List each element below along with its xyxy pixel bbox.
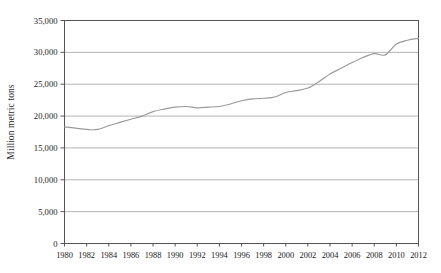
y-axis-tick-label: 25,000 xyxy=(34,79,58,89)
x-axis-tick-label: 2004 xyxy=(322,251,340,260)
x-axis-tick-label: 1992 xyxy=(189,251,206,260)
plot-border xyxy=(65,21,419,244)
x-axis-tick-label: 1982 xyxy=(78,251,95,260)
y-axis-tick-label: 30,000 xyxy=(34,47,58,57)
y-axis-tick-label: 35,000 xyxy=(34,16,58,26)
gridlines-group xyxy=(65,52,419,211)
x-axis-tick-label: 1998 xyxy=(255,251,272,260)
plot-canvas: 35,00030,00025,00020,00015,00010,0005,00… xyxy=(0,0,441,273)
y-axis-tick-label: 10,000 xyxy=(34,175,58,185)
x-axis-tick-label: 1994 xyxy=(211,251,229,260)
x-axis-tick-label: 2008 xyxy=(366,251,383,260)
y-axis-tick-label: 0 xyxy=(53,239,57,249)
y-axis-tick-label: 20,000 xyxy=(34,111,58,121)
x-axis-tick-label: 1988 xyxy=(145,251,162,260)
x-axis-tick-label: 1986 xyxy=(123,251,140,260)
x-axis-tick-label: 1996 xyxy=(233,251,250,260)
x-axis-tick-label: 1980 xyxy=(56,251,73,260)
x-axis-tick-label: 2006 xyxy=(344,251,361,260)
y-axis-tick-label: 15,000 xyxy=(34,143,58,153)
line-chart-figure: Million metric tons 35,00030,00025,00020… xyxy=(0,0,441,273)
x-axis-tick-label: 2000 xyxy=(277,251,294,260)
x-axis-tick-label: 1990 xyxy=(167,251,184,260)
x-axis-tick-label: 2010 xyxy=(388,251,405,260)
y-axis-tick-label: 5,000 xyxy=(38,207,57,217)
x-axis-tick-label: 2002 xyxy=(300,251,317,260)
x-axis-tick-label: 1984 xyxy=(100,251,118,260)
x-axis-tick-label: 2012 xyxy=(410,251,427,260)
x-axis-ticks-group: 1980198219841986198819901992199419961998… xyxy=(56,244,427,260)
y-axis-ticks-group: 35,00030,00025,00020,00015,00010,0005,00… xyxy=(34,16,65,249)
